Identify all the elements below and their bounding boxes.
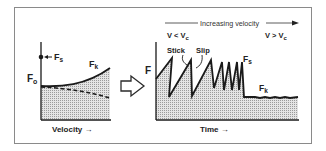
right-fk-label: Fk bbox=[259, 83, 268, 94]
left-x-axis-label: Velocity → bbox=[52, 125, 92, 134]
left-fs-label: Fs bbox=[54, 52, 64, 63]
left-fo-label: Fo bbox=[27, 73, 37, 85]
low-velocity-regime-label: V < Vc bbox=[167, 31, 190, 41]
kinetic-friction-area bbox=[41, 68, 110, 119]
friction-diagram: Fs Fo Fk Velocity → Increasing velocity … bbox=[0, 0, 326, 151]
right-f-axis-label: F bbox=[145, 65, 151, 76]
left-chart: Fs Fo Fk Velocity → bbox=[27, 42, 111, 134]
right-chart: Increasing velocity V < Vc V > Vc Stick … bbox=[145, 19, 299, 134]
friction-force-area bbox=[156, 58, 298, 119]
static-friction-point bbox=[39, 55, 44, 60]
slip-label: Slip bbox=[196, 46, 210, 55]
right-fs-label: Fs bbox=[243, 54, 252, 65]
hollow-right-arrow-icon bbox=[121, 76, 144, 96]
right-x-axis-label: Time → bbox=[200, 125, 229, 134]
left-fk-label: Fk bbox=[89, 59, 99, 70]
high-velocity-regime-label: V > Vc bbox=[265, 31, 288, 41]
increasing-velocity-arrowhead bbox=[292, 21, 299, 26]
slip-pointer bbox=[196, 55, 202, 68]
stick-pointer bbox=[182, 55, 187, 65]
fs-pointer-arrowhead bbox=[44, 55, 48, 59]
stick-label: Stick bbox=[167, 46, 186, 55]
increasing-velocity-label: Increasing velocity bbox=[200, 19, 260, 28]
